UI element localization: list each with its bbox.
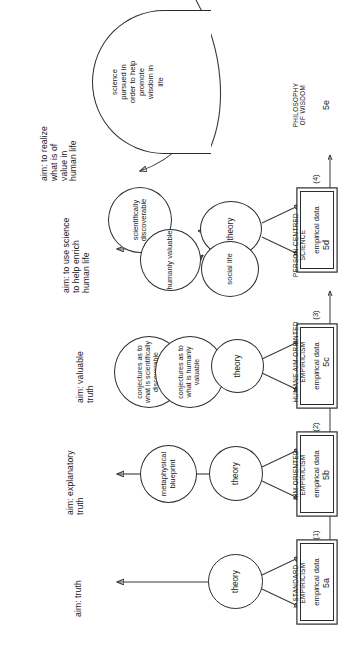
node-theory-5a: theory [208,554,263,609]
step-label-2: (2) [312,409,321,445]
stage-label-5e: PHILOSOPHY OF WISDOM [292,59,306,151]
node-metaphysical-blueprint-5b: metaphysical blueprint [140,445,197,503]
stage-number-5b: 5b [321,429,331,521]
node-empirical-data-5a-label: empirical data [313,558,322,605]
stage-number-5e: 5e [321,59,331,151]
aim-label-5c: aim: valuable truth [76,319,96,403]
stage-number-5d: 5d [321,197,331,293]
stage-label-5a: STANDARD EMPIRICISM [292,537,306,629]
step-label-1: (1) [312,517,321,553]
stage-number-5a: 5a [321,537,331,629]
diagram-canvas: aim: truth theory empirical data aim: ex… [0,0,357,651]
stage-number-5c: 5c [321,303,331,421]
node-theory-5a-label: theory [231,570,240,593]
aim-label-5b: aim: explanatory truth [66,423,86,515]
aim-label-5a: aim: truth [74,537,84,617]
node-humanly-valuable-5d: humanly valuable [140,229,201,291]
node-metaphysical-blueprint-5b-label: metaphysical blueprint [160,446,177,502]
node-theory-5b: theory [209,446,263,501]
node-social-life-5d-label: social life [226,253,235,284]
node-theory-5d-label: theory [226,218,235,241]
stage-label-5c: HUMANE AIM-ORIENTED EMPIRICISM [292,303,306,421]
step-label-4: (4) [312,161,321,197]
aim-label-5d: aim: to use science to help enrich human… [62,185,91,293]
figure-root: aim: truth theory empirical data aim: ex… [0,0,357,651]
stage-label-5d: PERSON-CENTRED SCIENCE [292,197,306,293]
node-theory-5c-label: theory [233,355,242,378]
step-label-3: (3) [312,297,321,333]
node-empirical-data-5d-label: empirical data [313,206,322,253]
node-science-wisdom-5e-label: science pursued in order to help promote… [110,36,165,128]
node-social-life-5d: social life [201,241,259,297]
node-theory-5b-label: theory [231,462,240,485]
node-empirical-data-5c-label: empirical data [313,342,322,389]
aim-label-5e: aim: to realize what is of value in huma… [40,85,79,181]
node-humanly-valuable-5d-label: humanly valuable [166,230,175,289]
stage-label-5b: AIM-ORIENTED EMPIRICISM [292,429,306,521]
node-conjectures-humanly-5c-label: conjectures as to what is humanly valuab… [178,337,201,407]
node-theory-5c: theory [211,339,264,393]
node-empirical-data-5b-label: empirical data [313,450,322,497]
